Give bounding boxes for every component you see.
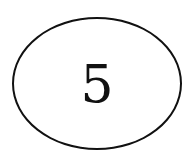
diagram-canvas: 5 (0, 0, 193, 163)
ellipse-node-label-container: 5 (12, 17, 182, 150)
ellipse-node-label: 5 (80, 58, 113, 110)
